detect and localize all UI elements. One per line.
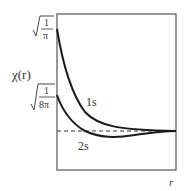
orbital-chart: 1s 2s χ(r) r 1 π 1 8π: [0, 0, 187, 191]
svg-text:1: 1: [44, 17, 49, 28]
series-1s-label: 1s: [86, 95, 97, 109]
svg-text:π: π: [43, 30, 48, 41]
y-tick-sqrt-1-over-8pi: 1 8π: [31, 84, 55, 110]
y-axis-label: χ(r): [11, 67, 31, 82]
series-2s-label: 2s: [78, 139, 89, 153]
series-1s-curve: [57, 29, 176, 131]
x-axis-label: r: [169, 176, 174, 188]
svg-text:8π: 8π: [39, 99, 49, 110]
svg-text:1: 1: [44, 85, 49, 96]
plot-frame: [57, 14, 176, 170]
y-tick-sqrt-1-over-pi: 1 π: [33, 16, 54, 41]
